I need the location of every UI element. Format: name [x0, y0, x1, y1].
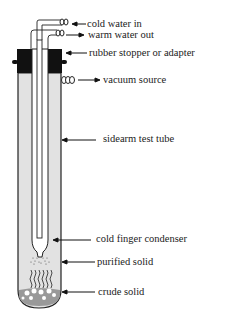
- label-vacuum-source: vacuum source: [103, 74, 166, 86]
- label-purified-solid: purified solid: [97, 256, 153, 268]
- label-sidearm-test-tube: sidearm test tube: [103, 133, 174, 145]
- stopper-flange-left: [12, 60, 18, 64]
- label-warm-water-out: warm water out: [88, 29, 154, 41]
- cold-finger-inner-tube: [37, 40, 42, 238]
- label-crude-solid: crude solid: [98, 286, 144, 298]
- vacuum-sidearm: [62, 77, 75, 84]
- stopper-flange-right: [61, 60, 67, 64]
- water-outlet-connector: [56, 30, 64, 36]
- water-inlet-connector: [60, 19, 68, 25]
- label-rubber-stopper: rubber stopper or adapter: [89, 47, 195, 59]
- label-cold-finger-condenser: cold finger condenser: [96, 233, 187, 245]
